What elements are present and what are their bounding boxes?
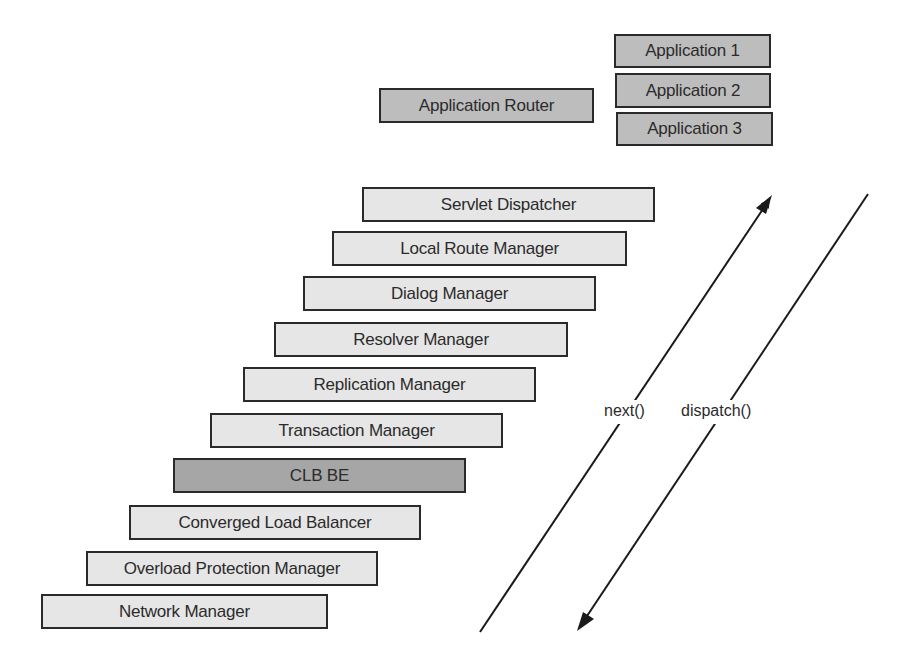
next-arrowhead-icon	[756, 195, 772, 214]
flow-arrows	[0, 0, 906, 663]
dispatch-label: dispatch()	[681, 402, 751, 420]
dispatch-arrowhead-icon	[577, 612, 594, 631]
next-label: next()	[604, 402, 645, 420]
